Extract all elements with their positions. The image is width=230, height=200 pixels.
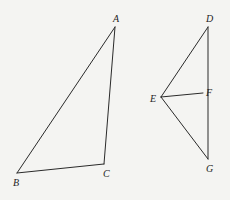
triangle-segments [17,27,208,173]
segment-de [161,27,208,97]
segment-ab [17,27,115,173]
vertex-label-a: A [112,13,120,24]
segment-eg [161,97,208,159]
vertex-label-b: B [13,177,19,188]
segment-ef [161,93,203,97]
geometry-diagram: A B C D E F G [0,0,230,200]
vertex-labels: A B C D E F G [13,13,214,188]
segment-ca [104,27,115,164]
vertex-label-g: G [206,163,213,174]
segment-bc [17,164,104,173]
vertex-label-f: F [205,87,213,98]
vertex-label-d: D [205,13,214,24]
vertex-label-e: E [149,93,156,104]
vertex-label-c: C [103,168,110,179]
